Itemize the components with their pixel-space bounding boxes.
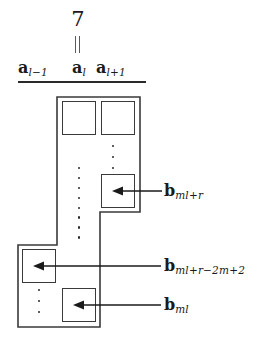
column-header-base-a: a	[18, 58, 28, 77]
column-header-a-l-minus-1: al−1	[18, 58, 48, 82]
annotation-subscript: ml+r−2m+2	[175, 264, 245, 276]
marker-value: 7	[60, 9, 96, 30]
annotation-label-b-ml-plus-r-minus-2m-plus-2: bml+r−2m+2	[164, 257, 245, 279]
vertical-ellipsis-upper-right	[110, 145, 116, 178]
header-rule	[18, 81, 146, 83]
column-header-subscript: l	[82, 66, 86, 78]
column-header-base-a: a	[96, 58, 106, 77]
annotation-label-b-ml: bml	[164, 296, 189, 318]
annotation-subscript: ml	[175, 303, 189, 315]
column-header-subscript: l−1	[28, 66, 47, 78]
annotation-base-b: b	[164, 295, 175, 314]
annotation-label-b-ml-plus-r: bml+r	[164, 182, 203, 204]
annotation-subscript: ml+r	[175, 189, 203, 201]
vertical-ellipsis-mid-left	[76, 167, 82, 246]
block-staircase-diagram: 7 al−1 al al+1	[0, 0, 262, 345]
cell-top-right	[101, 101, 135, 135]
annotation-base-b: b	[164, 181, 175, 200]
column-header-subscript: l+1	[106, 66, 125, 78]
column-header-a-l-plus-1: al+1	[96, 58, 126, 82]
column-header-row: al−1 al al+1	[18, 58, 146, 82]
double-vertical-bar-icon	[74, 36, 82, 53]
column-header-a-l: al	[72, 58, 86, 82]
column-header-base-a: a	[72, 58, 82, 77]
cell-top-left	[62, 101, 96, 135]
left-arrow-icon-b-ml-plus-r-minus-2m-plus-2	[33, 258, 161, 274]
left-arrow-icon-b-ml-plus-r	[112, 183, 162, 199]
left-arrow-icon-b-ml	[73, 297, 161, 313]
annotation-base-b: b	[164, 256, 175, 275]
vertical-ellipsis-bottom-left	[36, 289, 42, 322]
